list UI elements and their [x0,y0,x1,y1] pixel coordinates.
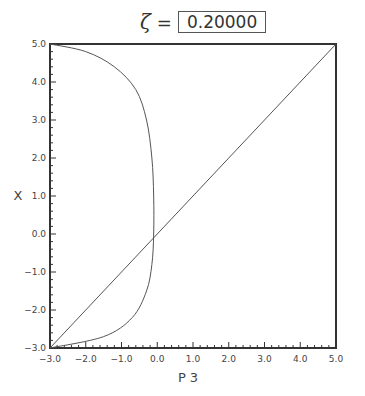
y-tick-label: 5.0 [32,39,47,49]
y-tick-label: −3.0 [24,343,46,353]
y-tick-label: −1.0 [24,267,46,277]
y-tick-label: −2.0 [24,305,46,315]
x-tick-label: −1.0 [111,354,133,364]
x-tick-label: 3.0 [257,354,272,364]
x-tick-label: 2.0 [222,354,237,364]
x-tick-label: 0.0 [150,354,165,364]
y-tick-label: 3.0 [32,115,47,125]
x-tick-label: −2.0 [75,354,97,364]
y-tick-label: 1.0 [32,191,47,201]
y-axis-label: X [14,188,23,203]
x-tick-label: 1.0 [186,354,201,364]
plot-area: −3.0−2.0−1.00.01.02.03.04.05.0−3.0−2.0−1… [0,0,365,396]
x-tick-label: 4.0 [293,354,308,364]
series-curve [50,44,154,348]
chart-container: ζ = 0.20000 −3.0−2.0−1.00.01.02.03.04.05… [0,0,365,396]
x-axis-label: P 3 [178,370,198,385]
x-tick-label: −3.0 [39,354,61,364]
y-tick-label: 0.0 [32,229,47,239]
x-tick-label: 5.0 [329,354,344,364]
y-tick-label: 4.0 [32,77,47,87]
y-tick-label: 2.0 [32,153,47,163]
series-diagonal [50,44,336,348]
